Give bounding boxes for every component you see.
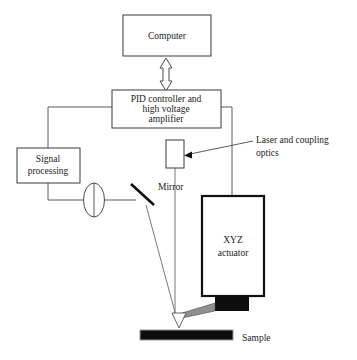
sample-bar: [140, 330, 233, 340]
wire-controller-to-signal-processing: [48, 107, 112, 148]
laser-pointer-arrowhead: [184, 152, 192, 159]
cantilever-beam: [182, 303, 215, 318]
signal-processing-label-line1: Signal: [36, 154, 61, 164]
computer-label: Computer: [148, 31, 187, 41]
xyz-actuator-block: XYZ actuator: [202, 196, 264, 311]
wire-signal-processing-to-detector: [48, 183, 84, 200]
photodetector: [84, 183, 105, 217]
laser-block: Laser and coupling optics: [166, 135, 329, 168]
controller-block: PID controller and high voltage amplifie…: [112, 90, 221, 128]
actuator-mount-block: [215, 296, 249, 311]
xyz-actuator-label-line1: XYZ: [223, 235, 243, 245]
laser-optics-label-line1: Laser and coupling: [256, 135, 329, 145]
laser-optics-label-line2: optics: [256, 148, 279, 158]
bidirectional-arrow-computer-controller: [160, 58, 172, 91]
xyz-actuator-box: [202, 196, 264, 296]
controller-label-line2: high voltage: [142, 104, 189, 114]
diagram-canvas: Computer PID controller and high voltage…: [0, 0, 357, 360]
laser-pointer-line: [190, 141, 253, 154]
xyz-actuator-label-line2: actuator: [218, 248, 249, 258]
controller-label-line1: PID controller and: [131, 94, 202, 104]
computer-block: Computer: [123, 15, 211, 56]
signal-processing-label-line2: processing: [28, 166, 69, 176]
cantilever-assembly: [172, 303, 215, 328]
mirror-element: Mirror: [131, 182, 184, 205]
sample-block: Sample: [140, 330, 271, 343]
afm-schematic-diagram: Computer PID controller and high voltage…: [0, 0, 357, 360]
mirror-surface: [131, 184, 154, 205]
laser-reflected-beam: [146, 205, 176, 316]
probe-tip: [172, 313, 186, 328]
wire-controller-to-actuator: [221, 107, 232, 196]
laser-box: [166, 140, 184, 168]
sample-label: Sample: [242, 333, 271, 343]
signal-processing-block: Signal processing: [17, 148, 80, 183]
controller-label-line3: amplifier: [149, 114, 185, 124]
mirror-label: Mirror: [158, 182, 184, 192]
